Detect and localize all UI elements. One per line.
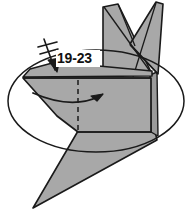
tail-wedge xyxy=(33,131,157,208)
body-panel xyxy=(23,78,151,132)
repeat-arrow-tick-upper xyxy=(38,42,57,47)
step-reference-label: 19-23 xyxy=(57,50,92,66)
origami-illustration: 19-23 xyxy=(0,0,191,211)
origami-diagram: 19-23 xyxy=(0,0,191,211)
